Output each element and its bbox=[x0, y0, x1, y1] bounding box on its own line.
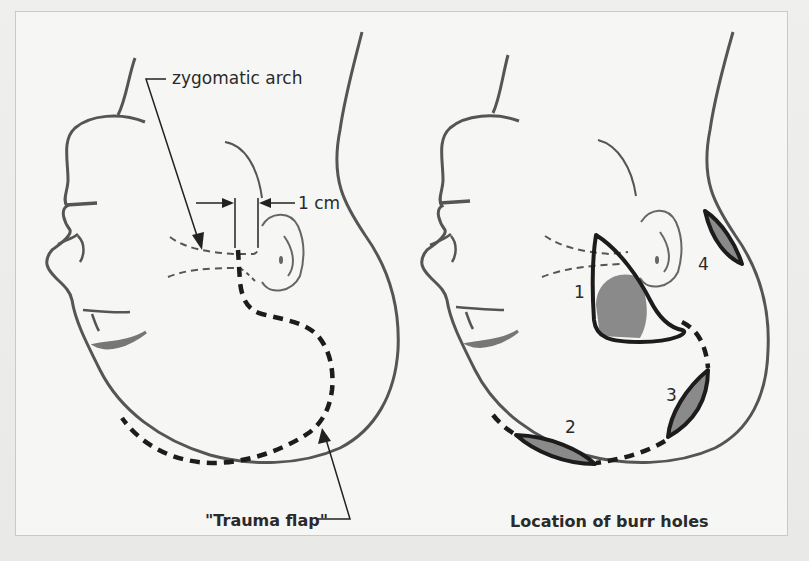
left-head-figure: 1 cm zygomatic arch "Trauma flap" bbox=[47, 32, 398, 530]
zygomatic-dashed-upper bbox=[170, 237, 254, 254]
burr-hole-1-number: 1 bbox=[574, 282, 585, 302]
right-temple-arc bbox=[598, 140, 636, 196]
right-eye bbox=[456, 307, 504, 329]
right-eyebrow bbox=[468, 331, 518, 346]
burr-hole-2-number: 2 bbox=[565, 417, 576, 437]
measure-arrowhead-right bbox=[259, 198, 271, 208]
left-face-profile bbox=[47, 32, 398, 463]
left-head-top-line bbox=[118, 58, 135, 115]
right-head-top-line bbox=[493, 55, 508, 113]
skull-diagram: 1 cm zygomatic arch "Trauma flap" bbox=[0, 0, 809, 561]
burr-hole-incision-1-3 bbox=[682, 322, 708, 368]
zygomatic-arch-label: zygomatic arch bbox=[172, 68, 302, 88]
right-mouth-line bbox=[440, 201, 470, 203]
left-ear bbox=[262, 215, 304, 291]
burr-holes-caption: Location of burr holes bbox=[510, 512, 709, 531]
left-mouth-line bbox=[66, 203, 97, 205]
right-head-figure: 1 4 3 2 Location of burr holes bbox=[422, 32, 768, 531]
measure-arrowhead-left bbox=[222, 198, 234, 208]
left-temple-arc bbox=[225, 142, 262, 198]
left-ear-inner bbox=[284, 236, 293, 276]
right-ear-canal bbox=[655, 256, 659, 264]
distance-label: 1 cm bbox=[298, 193, 340, 213]
burr-hole-2 bbox=[516, 435, 595, 464]
trauma-flap-caption: "Trauma flap" bbox=[205, 511, 328, 530]
right-ear bbox=[640, 211, 682, 287]
zygomatic-leader-line bbox=[146, 79, 200, 245]
figure-page: 1 cm zygomatic arch "Trauma flap" bbox=[0, 0, 809, 561]
trauma-flap-leader-line bbox=[318, 436, 350, 519]
zygomatic-dashed-end bbox=[240, 246, 258, 282]
right-zygomatic-dashed-lower bbox=[542, 264, 620, 277]
trauma-flap-arrowhead bbox=[318, 428, 331, 444]
burr-hole-3-number: 3 bbox=[666, 385, 677, 405]
left-eyebrow bbox=[95, 332, 146, 348]
trauma-flap-incision bbox=[122, 250, 332, 463]
left-eye bbox=[83, 310, 130, 331]
right-ear-inner bbox=[660, 232, 669, 272]
right-nostril bbox=[430, 234, 456, 262]
zygomatic-dashed-lower bbox=[168, 268, 235, 277]
left-nostril bbox=[58, 234, 84, 262]
burr-hole-4-number: 4 bbox=[698, 254, 709, 274]
left-ear-canal bbox=[279, 256, 283, 264]
